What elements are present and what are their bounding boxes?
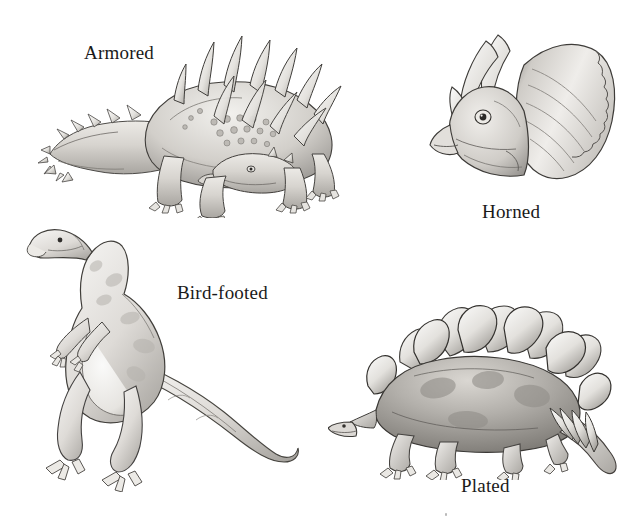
label-armored: Armored	[84, 43, 154, 63]
page-speck-artifact	[445, 513, 447, 516]
armored-dinosaur-illustration	[28, 28, 368, 218]
label-horned: Horned	[482, 202, 540, 222]
bird-footed-head	[27, 230, 92, 260]
horned-dinosaur-illustration	[420, 25, 619, 197]
bird-footed-dinosaur-illustration	[18, 222, 318, 492]
plated-dinosaur-illustration	[328, 300, 619, 480]
horned-frill	[516, 44, 615, 178]
horned-face	[430, 87, 529, 177]
illustration-plate: Armored	[0, 0, 619, 532]
label-plated: Plated	[461, 476, 510, 496]
plated-head	[328, 410, 377, 437]
label-bird-footed: Bird-footed	[177, 283, 268, 303]
